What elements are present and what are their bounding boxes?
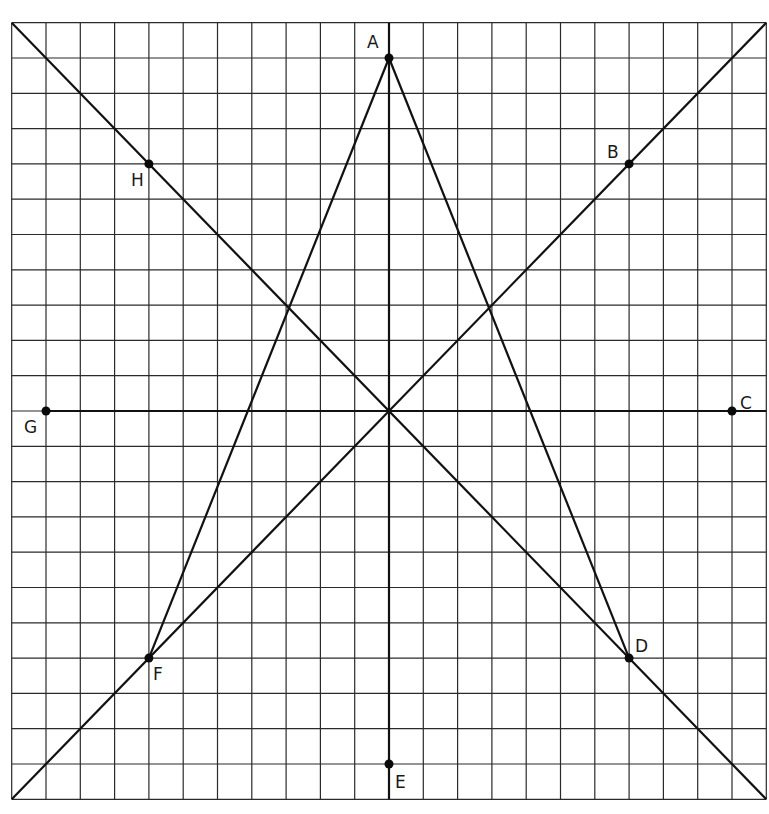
point-dot-icon — [625, 159, 634, 168]
segment-A-D — [389, 58, 629, 658]
point-dot-icon — [144, 654, 153, 663]
point-label: B — [607, 142, 619, 162]
point-label: E — [395, 772, 406, 792]
point-label: H — [131, 170, 144, 190]
point-label: G — [24, 417, 37, 437]
geometry-diagram: ABCDEFGH — [0, 0, 769, 814]
point-dot-icon — [385, 54, 394, 63]
point-label: A — [367, 32, 379, 52]
point-label: C — [740, 393, 752, 413]
point-label: D — [635, 636, 648, 656]
point-dot-icon — [144, 159, 153, 168]
point-label: F — [153, 664, 163, 684]
point-dot-icon — [728, 407, 737, 416]
segment-A-F — [149, 58, 389, 658]
point-c: C — [728, 393, 752, 416]
point-dot-icon — [42, 407, 51, 416]
point-dot-icon — [385, 760, 394, 769]
point-dot-icon — [625, 654, 634, 663]
figure-lines — [12, 23, 767, 800]
